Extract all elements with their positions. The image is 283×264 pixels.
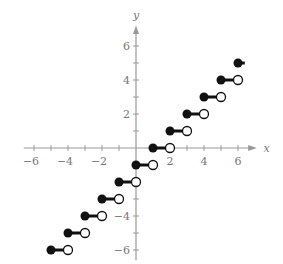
y-axis-label: y [132,9,140,22]
open-endpoint [183,127,192,136]
open-endpoint [166,144,175,153]
y-tick-label: 4 [123,74,130,87]
x-tick-label: −4 [57,155,73,168]
closed-endpoint [132,161,141,170]
x-tick-label: −2 [91,155,107,168]
x-tick-label: 2 [167,155,174,168]
closed-endpoint [166,127,175,136]
y-tick-label: 6 [123,40,130,53]
closed-endpoint [149,144,158,153]
open-endpoint [217,93,226,102]
open-endpoint [81,229,90,238]
open-endpoint [64,246,73,255]
closed-endpoint [217,76,226,85]
y-tick-label: 2 [123,108,130,121]
y-tick-label: −6 [114,244,130,257]
open-endpoint [98,212,107,221]
x-axis-label: x [264,142,271,155]
open-endpoint [149,161,158,170]
open-endpoint [234,76,243,85]
closed-endpoint [64,229,73,238]
y-axis-arrow-icon [133,26,139,34]
step-function-chart: −6−4−2246642−4−6xy [0,0,283,264]
closed-endpoint [200,93,209,102]
open-endpoint [115,195,124,204]
open-endpoint [132,178,141,187]
closed-endpoint [81,212,90,221]
x-tick-label: 4 [201,155,208,168]
x-tick-label: −6 [23,155,39,168]
closed-endpoint [98,195,107,204]
y-tick-label: −4 [114,210,130,223]
closed-endpoint [47,246,56,255]
x-tick-label: 6 [235,155,242,168]
closed-endpoint [234,59,243,68]
closed-endpoint [115,178,124,187]
closed-endpoint [183,110,192,119]
open-endpoint [200,110,209,119]
x-axis-arrow-icon [248,145,257,151]
chart-canvas: −6−4−2246642−4−6xy [0,0,283,264]
